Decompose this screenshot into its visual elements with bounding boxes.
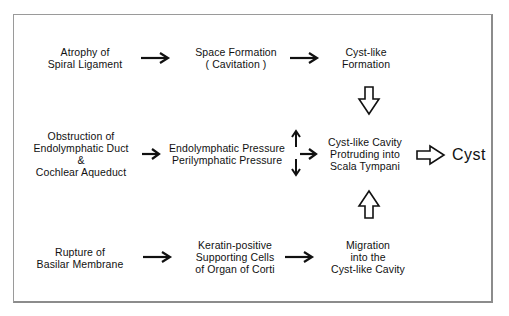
hollow-arrow-down-icon bbox=[357, 86, 381, 116]
node-cyst-like-formation: Cyst-like Formation bbox=[326, 46, 406, 70]
node-migration: Migration into the Cyst-like Cavity bbox=[320, 239, 416, 275]
node-atrophy-of-spiral-ligament: Atrophy of Spiral Ligament bbox=[30, 46, 140, 70]
solid-arrow-right-icon bbox=[300, 148, 318, 160]
hollow-arrow-right-icon bbox=[416, 145, 446, 165]
solid-arrow-right-icon bbox=[142, 148, 162, 160]
node-pressure: Endolymphatic Pressure Perilymphatic Pre… bbox=[162, 142, 292, 166]
node-rupture-of-basilar-membrane: Rupture of Basilar Membrane bbox=[28, 246, 132, 270]
solid-arrow-right-icon bbox=[290, 52, 320, 64]
node-space-formation: Space Formation ( Cavitation ) bbox=[176, 46, 296, 70]
solid-arrow-right-icon bbox=[285, 251, 315, 263]
hollow-arrow-up-icon bbox=[357, 190, 381, 220]
node-keratin-positive-cells: Keratin-positive Supporting Cells of Org… bbox=[180, 239, 290, 275]
pressure-up-arrow-icon bbox=[291, 130, 301, 148]
node-cyst-like-cavity: Cyst-like Cavity Protruding into Scala T… bbox=[318, 136, 412, 172]
solid-arrow-right-icon bbox=[143, 251, 173, 263]
node-obstruction: Obstruction of Endolymphatic Duct & Coch… bbox=[20, 130, 142, 178]
pressure-down-arrow-icon bbox=[291, 158, 301, 176]
node-cyst: Cyst bbox=[448, 146, 490, 164]
solid-arrow-right-icon bbox=[141, 52, 171, 64]
